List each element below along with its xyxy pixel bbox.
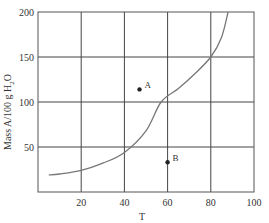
y-axis-label: Mass A/100 g H2O <box>2 74 16 150</box>
x-tick-label: 60 <box>163 197 173 208</box>
point-b <box>165 160 169 164</box>
grid-lines <box>38 12 254 192</box>
x-tick-label: 100 <box>247 197 262 208</box>
x-tick-label: 40 <box>119 197 129 208</box>
solubility-curve <box>49 12 228 175</box>
y-tick-label: 100 <box>19 97 34 108</box>
x-tick-label: 80 <box>206 197 216 208</box>
x-axis-label: T <box>139 211 145 222</box>
point-label-b: B <box>173 153 179 163</box>
point-a <box>137 87 141 91</box>
x-tick-labels: 20406080100 <box>76 197 261 208</box>
y-tick-labels: 50100150200 <box>19 7 34 153</box>
solubility-chart: 20406080100 50100150200 AB T Mass A/100 … <box>0 0 269 223</box>
y-tick-label: 200 <box>19 7 34 18</box>
y-tick-label: 50 <box>24 142 34 153</box>
y-tick-label: 150 <box>19 52 34 63</box>
point-label-a: A <box>145 80 152 90</box>
x-tick-label: 20 <box>76 197 86 208</box>
